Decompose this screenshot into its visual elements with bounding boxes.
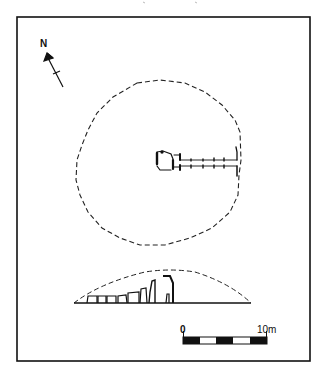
mound-profile <box>74 270 251 303</box>
section-view <box>74 270 251 303</box>
site-plan-figure: N <box>0 0 323 370</box>
header-marks <box>143 2 197 3</box>
north-label: N <box>40 38 47 49</box>
chamber-plan <box>157 147 237 176</box>
north-arrow: N <box>40 38 63 87</box>
north-arrow-icon <box>44 53 63 87</box>
chamber-section <box>87 276 173 303</box>
cairn-outline <box>76 80 241 245</box>
scale-bar: 0 10m <box>180 324 276 344</box>
plan-view <box>76 80 241 245</box>
figure-frame <box>17 17 310 361</box>
